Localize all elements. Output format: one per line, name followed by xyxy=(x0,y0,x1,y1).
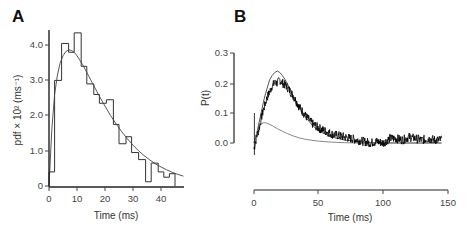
panel-a-ytick-4: 4.0 xyxy=(30,39,43,50)
fit-curve xyxy=(49,50,183,186)
panel-b-xtick-2: 100 xyxy=(375,197,391,208)
panel-a-y-label: pdf × 10² (ms⁻¹) xyxy=(12,75,23,146)
panel-b-ytick-2: 0.2 xyxy=(215,78,228,89)
panel-a-plot-area xyxy=(49,33,183,186)
noisy-trace xyxy=(254,78,441,150)
panel-b-label: B xyxy=(234,7,246,26)
panel-a-xtick-3: 30 xyxy=(128,193,139,204)
panel-b-xtick-0: 0 xyxy=(251,197,256,208)
panel-b-ytick-1: 0.1 xyxy=(215,107,228,118)
panel-a: A 0 1.0 2.0 3.0 4.0 0 10 20 30 40 xyxy=(12,7,184,221)
figure: A 0 1.0 2.0 3.0 4.0 0 10 20 30 40 xyxy=(0,0,466,232)
panel-a-ytick-3: 3.0 xyxy=(30,74,43,85)
panel-a-x-ticks: 0 10 20 30 40 xyxy=(46,187,166,204)
histogram-bars xyxy=(49,33,175,186)
panel-a-xtick-2: 20 xyxy=(100,193,111,204)
panel-b-x-ticks: 0 50 100 150 xyxy=(251,190,456,208)
panel-b-y-label: P(t) xyxy=(200,90,211,106)
panel-b-y-ticks: 0.3 0.2 0.1 0.0 xyxy=(215,47,234,148)
panel-b-plot-area xyxy=(254,71,441,155)
panel-a-x-label: Time (ms) xyxy=(94,210,139,221)
panel-b-x-label: Time (ms) xyxy=(328,212,373,223)
panel-a-xtick-0: 0 xyxy=(46,193,51,204)
panel-a-ytick-0: 0 xyxy=(38,180,43,191)
panel-a-ytick-2: 2.0 xyxy=(30,109,43,120)
panel-a-y-ticks: 0 1.0 2.0 3.0 4.0 xyxy=(30,39,49,191)
panel-b-ytick-3: 0.3 xyxy=(215,47,228,58)
panel-a-xtick-1: 10 xyxy=(72,193,83,204)
panel-a-ytick-1: 1.0 xyxy=(30,145,43,156)
panel-a-label: A xyxy=(12,7,24,26)
panel-b: B 0.3 0.2 0.1 0.0 0 50 100 150 Time (ms)… xyxy=(200,7,456,223)
panel-b-xtick-3: 150 xyxy=(440,197,456,208)
panel-b-xtick-1: 50 xyxy=(313,197,324,208)
panel-b-ytick-0: 0.0 xyxy=(215,137,228,148)
panel-a-xtick-4: 40 xyxy=(156,193,167,204)
